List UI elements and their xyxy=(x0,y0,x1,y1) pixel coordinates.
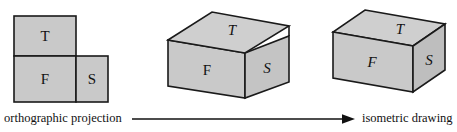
ortho-face-side-label: S xyxy=(88,71,96,87)
iso-face-front-label: F xyxy=(366,54,377,70)
ortho-face-front-label: F xyxy=(41,71,49,87)
fold-face-side-label: S xyxy=(263,60,271,76)
ortho-face-top-label: T xyxy=(40,28,49,44)
caption-isometric-drawing: isometric drawing xyxy=(362,108,453,128)
figure-container: T F S F S T T F S orthographic pro xyxy=(0,0,457,132)
iso-face-side-label: S xyxy=(425,52,433,68)
arrow-right-icon xyxy=(130,110,360,128)
caption-row: orthographic projection isometric drawin… xyxy=(0,108,457,132)
orthographic-projection-figure: T F S xyxy=(0,0,150,110)
partially-folded-box-figure: F S T xyxy=(150,0,310,110)
fold-face-front-label: F xyxy=(203,62,211,78)
caption-orthographic-projection: orthographic projection xyxy=(4,108,122,128)
isometric-box-figure: T F S xyxy=(300,0,457,110)
